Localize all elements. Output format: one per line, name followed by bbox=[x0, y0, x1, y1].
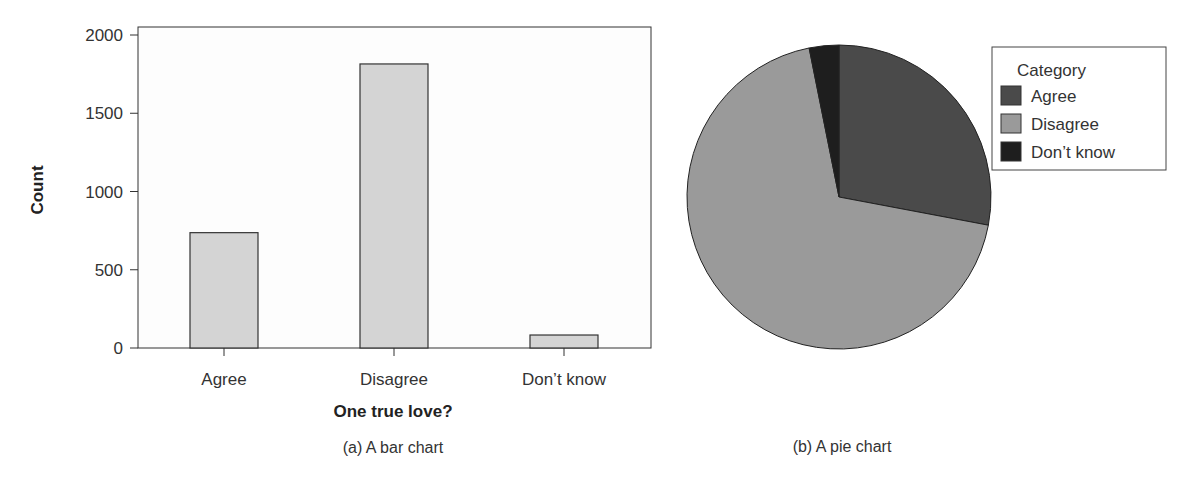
y-tick-label: 1500 bbox=[85, 104, 123, 123]
y-axis-label: Count bbox=[28, 165, 47, 214]
pie bbox=[687, 45, 991, 349]
pie-chart: Category AgreeDisagreeDon’t know (b) A p… bbox=[660, 0, 1179, 478]
legend-title: Category bbox=[1017, 61, 1086, 80]
bar-chart: 0500100015002000 AgreeDisagreeDon’t know… bbox=[0, 0, 660, 478]
legend-label: Disagree bbox=[1031, 115, 1099, 134]
x-axis-label: One true love? bbox=[333, 402, 452, 421]
legend-swatch bbox=[1001, 142, 1021, 161]
legend-swatch bbox=[1001, 114, 1021, 133]
bar bbox=[530, 335, 598, 348]
x-axis: AgreeDisagreeDon’t know bbox=[201, 348, 606, 389]
pie-slice bbox=[839, 45, 991, 225]
x-tick-label: Don’t know bbox=[522, 370, 607, 389]
legend: Category AgreeDisagreeDon’t know bbox=[992, 47, 1166, 170]
legend-label: Don’t know bbox=[1031, 143, 1116, 162]
y-axis: 0500100015002000 bbox=[85, 26, 138, 358]
y-tick-label: 500 bbox=[95, 261, 123, 280]
y-tick-label: 2000 bbox=[85, 26, 123, 45]
x-tick-label: Agree bbox=[201, 370, 246, 389]
bar bbox=[360, 64, 428, 348]
pie-chart-caption: (b) A pie chart bbox=[793, 438, 892, 455]
bar bbox=[190, 233, 258, 348]
x-tick-label: Disagree bbox=[360, 370, 428, 389]
y-tick-label: 1000 bbox=[85, 183, 123, 202]
legend-label: Agree bbox=[1031, 87, 1076, 106]
y-tick-label: 0 bbox=[114, 339, 123, 358]
legend-swatch bbox=[1001, 86, 1021, 105]
bar-chart-caption: (a) A bar chart bbox=[343, 439, 444, 456]
